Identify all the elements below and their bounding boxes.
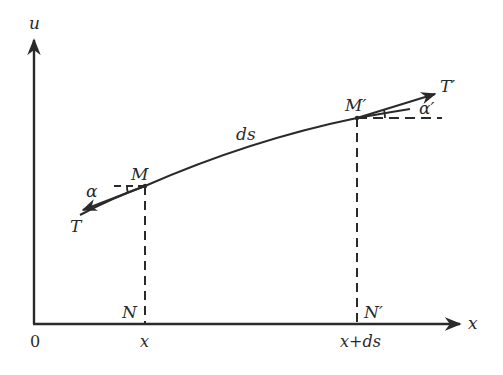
u-axis-label: u [29,13,40,33]
angle-alpha-prime-label: α′ [419,98,434,118]
point-M-prime [355,116,359,120]
string-element-diagram: u x 0 M M′ N N′ x x+ds ds T α T′ α′ [0,0,503,375]
angle-arc-alpha-prime [384,110,385,118]
foot-N-prime-label: N′ [363,302,383,322]
origin-label: 0 [30,332,40,351]
x-axis-label: x [468,313,478,333]
point-M-prime-label: M′ [344,95,366,115]
angle-alpha-label: α [86,181,98,201]
foot-N-label: N [121,302,138,322]
x-tick-label: x [140,332,149,351]
curve-ds-label: ds [236,124,256,144]
tension-T-label: T [70,216,83,236]
point-M-label: M [130,164,149,184]
x-plus-ds-tick-label: x+ds [340,332,381,351]
tension-T-prime-label: T′ [440,76,455,96]
angle-arc-alpha [127,186,128,193]
point-M [143,184,147,188]
